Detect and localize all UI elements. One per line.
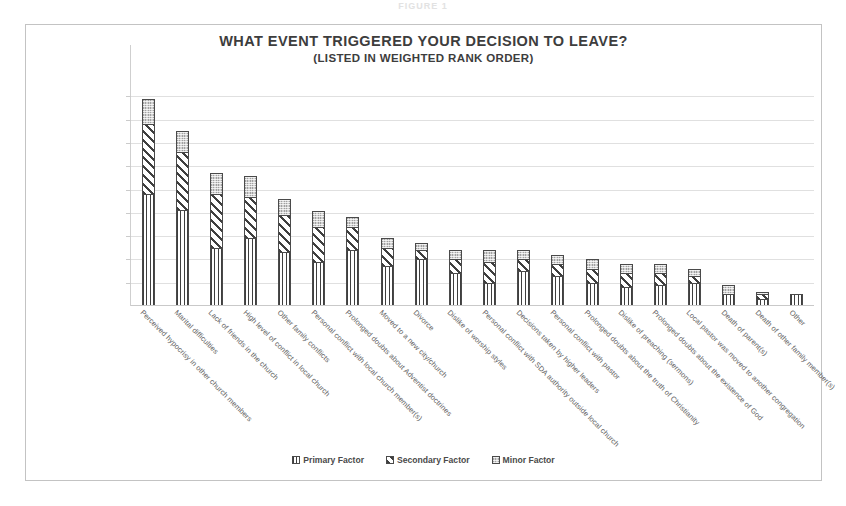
bar-segment[interactable]	[142, 194, 155, 306]
bar-column[interactable]	[381, 238, 394, 306]
bar-segment[interactable]	[483, 283, 496, 306]
bar-column[interactable]	[586, 259, 599, 306]
bar-segment[interactable]	[244, 176, 257, 197]
x-axis-label: Lack of friends in the church	[207, 308, 281, 382]
bar-segment[interactable]	[654, 285, 667, 306]
legend-swatch-icon	[386, 456, 394, 464]
bar-segment[interactable]	[142, 124, 155, 194]
bar-segment[interactable]	[620, 287, 633, 306]
bar-segment[interactable]	[620, 264, 633, 273]
bar-segment[interactable]	[176, 152, 189, 210]
y-axis-tick	[126, 190, 131, 191]
bar-segment[interactable]	[210, 173, 223, 194]
chart-container: WHAT EVENT TRIGGERED YOUR DECISION TO LE…	[25, 24, 822, 481]
bar-segment[interactable]	[722, 285, 735, 294]
bar-column[interactable]	[483, 250, 496, 306]
bar-segment[interactable]	[517, 259, 530, 271]
bar-segment[interactable]	[244, 238, 257, 306]
bar-segment[interactable]	[415, 259, 428, 306]
bar-segment[interactable]	[517, 250, 530, 259]
bar-segment[interactable]	[586, 269, 599, 283]
bar-segment[interactable]	[381, 266, 394, 306]
bar-segment[interactable]	[415, 243, 428, 250]
x-axis-label: Dislike of worship styles	[446, 308, 510, 372]
chart-legend: Primary FactorSecondary FactorMinor Fact…	[26, 455, 821, 465]
bar-segment[interactable]	[415, 250, 428, 259]
bar-column[interactable]	[517, 250, 530, 306]
bar-segment[interactable]	[176, 131, 189, 152]
bar-column[interactable]	[688, 269, 701, 306]
y-axis-tick	[126, 283, 131, 284]
bar-segment[interactable]	[346, 250, 359, 306]
legend-label: Primary Factor	[303, 455, 364, 465]
bar-segment[interactable]	[312, 262, 325, 306]
y-axis-tick	[126, 236, 131, 237]
y-axis-tick	[126, 96, 131, 97]
bar-column[interactable]	[415, 243, 428, 306]
bar-segment[interactable]	[278, 199, 291, 215]
bar-column[interactable]	[312, 211, 325, 307]
bar-segment[interactable]	[688, 276, 701, 283]
bar-column[interactable]	[722, 285, 735, 306]
legend-item[interactable]: Minor Factor	[492, 455, 555, 465]
bar-segment[interactable]	[449, 250, 462, 259]
bar-segment[interactable]	[278, 215, 291, 252]
x-axis-label: Local pastor was moved to another congre…	[685, 308, 808, 431]
bar-segment[interactable]	[381, 248, 394, 267]
bar-column[interactable]	[244, 176, 257, 306]
bar-column[interactable]	[449, 250, 462, 306]
bar-segment[interactable]	[210, 194, 223, 248]
x-axis-label: Moved to a new city/church	[378, 308, 450, 380]
chart-subtitle: (LISTED IN WEIGHTED RANK ORDER)	[26, 52, 821, 64]
bar-segment[interactable]	[346, 217, 359, 226]
bar-segment[interactable]	[551, 264, 564, 276]
bar-segment[interactable]	[517, 271, 530, 306]
bar-segment[interactable]	[312, 227, 325, 262]
plot-area	[131, 73, 814, 306]
x-axis-label: Divorce	[412, 308, 437, 333]
bar-segment[interactable]	[654, 264, 667, 273]
bar-segment[interactable]	[278, 252, 291, 306]
bar-column[interactable]	[620, 264, 633, 306]
bar-segment[interactable]	[586, 283, 599, 306]
bar-segment[interactable]	[688, 283, 701, 306]
bar-segment[interactable]	[449, 259, 462, 273]
bar-segment[interactable]	[312, 211, 325, 227]
bar-segment[interactable]	[483, 262, 496, 283]
bar-segment[interactable]	[142, 99, 155, 125]
bar-column[interactable]	[210, 173, 223, 306]
chart-title: WHAT EVENT TRIGGERED YOUR DECISION TO LE…	[26, 33, 821, 49]
legend-label: Secondary Factor	[397, 455, 470, 465]
bar-segment[interactable]	[244, 197, 257, 239]
bar-column[interactable]	[756, 292, 769, 306]
legend-swatch-icon	[492, 456, 500, 464]
bar-segment[interactable]	[210, 248, 223, 306]
bar-column[interactable]	[142, 99, 155, 306]
y-axis-tick	[126, 143, 131, 144]
bar-column[interactable]	[176, 131, 189, 306]
legend-label: Minor Factor	[503, 455, 555, 465]
bar-segment[interactable]	[449, 273, 462, 306]
bar-segment[interactable]	[620, 273, 633, 287]
bar-column[interactable]	[551, 255, 564, 306]
bar-segment[interactable]	[654, 273, 667, 285]
bar-column[interactable]	[346, 217, 359, 306]
bar-segment[interactable]	[586, 259, 599, 268]
x-axis-labels: Perceived hypocrisy in other church memb…	[131, 308, 831, 458]
y-axis-tick	[126, 213, 131, 214]
bars-layer	[131, 73, 814, 306]
bar-column[interactable]	[654, 264, 667, 306]
legend-item[interactable]: Secondary Factor	[386, 455, 470, 465]
bar-segment[interactable]	[381, 238, 394, 247]
bar-segment[interactable]	[551, 255, 564, 264]
bar-segment[interactable]	[483, 250, 496, 262]
x-axis-label: Prolonged doubts about the truth of Chri…	[583, 308, 702, 427]
bar-segment[interactable]	[346, 227, 359, 250]
bar-segment[interactable]	[551, 276, 564, 306]
x-axis-line	[131, 305, 814, 306]
bar-segment[interactable]	[688, 269, 701, 276]
bar-segment[interactable]	[176, 210, 189, 306]
legend-item[interactable]: Primary Factor	[292, 455, 364, 465]
y-axis-tick	[126, 166, 131, 167]
bar-column[interactable]	[278, 199, 291, 306]
